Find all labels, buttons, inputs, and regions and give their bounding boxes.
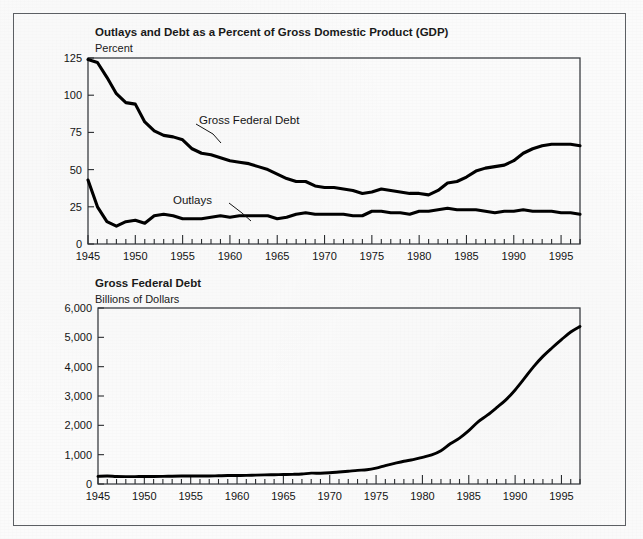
top-chart-y-ticks	[88, 58, 94, 244]
x-tick-label: 1995	[549, 250, 573, 262]
debt-label-leader-line	[196, 124, 221, 143]
y-tick-label: 3,000	[64, 390, 92, 402]
x-tick-label: 1955	[178, 490, 202, 502]
x-tick-label: 1960	[218, 250, 242, 262]
bottom-chart-x-tick-labels: 1945195019551960196519701975198019851990…	[86, 490, 574, 502]
top-chart-plot: 0255075100125 19451950195519601965197019…	[64, 52, 580, 262]
x-tick-label: 1985	[457, 490, 481, 502]
bottom-chart-y-tick-labels: 01,0002,0003,0004,0005,0006,000	[64, 302, 92, 490]
x-tick-label: 1990	[502, 250, 526, 262]
y-tick-label: 75	[70, 126, 82, 138]
bottom-chart-plot: 01,0002,0003,0004,0005,0006,000 19451950…	[64, 302, 580, 502]
y-tick-label: 0	[86, 478, 92, 490]
x-tick-label: 1965	[271, 490, 295, 502]
x-tick-label: 1980	[407, 250, 431, 262]
x-tick-label: 1960	[225, 490, 249, 502]
x-tick-label: 1970	[312, 250, 336, 262]
series-line-gross-federal-debt-billions	[98, 326, 580, 476]
series-line-gross-federal-debt-pct	[88, 59, 580, 194]
x-tick-label: 1950	[123, 250, 147, 262]
y-tick-label: 100	[64, 89, 82, 101]
figure-page: Outlays and Debt as a Percent of Gross D…	[0, 0, 643, 539]
y-tick-label: 5,000	[64, 331, 92, 343]
top-chart-x-ticks	[88, 235, 580, 244]
top-chart-x-tick-labels: 1945195019551960196519701975198019851990…	[76, 250, 574, 262]
x-tick-label: 1955	[170, 250, 194, 262]
outlays-series-label: Outlays	[173, 194, 212, 206]
x-tick-label: 1950	[132, 490, 156, 502]
x-tick-label: 1975	[364, 490, 388, 502]
top-chart-y-tick-labels: 0255075100125	[64, 52, 82, 250]
x-tick-label: 1980	[410, 490, 434, 502]
y-tick-label: 125	[64, 52, 82, 64]
x-tick-label: 1985	[454, 250, 478, 262]
y-tick-label: 50	[70, 164, 82, 176]
x-tick-label: 1990	[503, 490, 527, 502]
y-tick-label: 2,000	[64, 419, 92, 431]
y-tick-label: 25	[70, 201, 82, 213]
charts-canvas: 0255075100125 19451950195519601965197019…	[0, 0, 643, 539]
x-tick-label: 1945	[76, 250, 100, 262]
y-tick-label: 4,000	[64, 361, 92, 373]
y-tick-label: 0	[76, 238, 82, 250]
x-tick-label: 1995	[549, 490, 573, 502]
x-tick-label: 1970	[317, 490, 341, 502]
x-tick-label: 1965	[265, 250, 289, 262]
debt-series-label: Gross Federal Debt	[199, 114, 300, 126]
y-tick-label: 1,000	[64, 449, 92, 461]
y-tick-label: 6,000	[64, 302, 92, 314]
bottom-chart-y-ticks	[98, 308, 104, 484]
x-tick-label: 1975	[360, 250, 384, 262]
x-tick-label: 1945	[86, 490, 110, 502]
